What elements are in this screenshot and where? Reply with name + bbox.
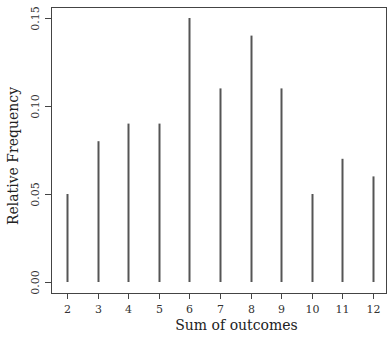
y-tick-label: 0.10	[29, 94, 42, 119]
x-tick-label: 12	[367, 303, 381, 316]
x-axis-title: Sum of outcomes	[175, 317, 297, 333]
x-tick-label: 2	[64, 303, 71, 316]
x-tick-label: 10	[306, 303, 320, 316]
plot-box	[52, 8, 387, 294]
x-tick-label: 5	[156, 303, 163, 316]
x-tick-label: 8	[248, 303, 255, 316]
bar-chart: 0.000.050.100.15 23456789101112 Sum of o…	[0, 0, 388, 339]
x-tick-label: 7	[217, 303, 224, 316]
x-tick-label: 6	[186, 303, 193, 316]
y-tick-label: 0.15	[29, 6, 42, 31]
x-tick-label: 4	[125, 303, 132, 316]
x-tick-label: 9	[278, 303, 285, 316]
bar-series	[68, 18, 374, 282]
x-tick-label: 3	[95, 303, 102, 316]
y-axis-title: Relative Frequency	[5, 87, 21, 225]
y-tick-label: 0.00	[29, 270, 42, 295]
x-axis: 23456789101112	[64, 293, 381, 316]
x-tick-label: 11	[336, 303, 350, 316]
y-tick-label: 0.05	[29, 182, 42, 207]
y-axis: 0.000.050.100.15	[29, 6, 51, 295]
